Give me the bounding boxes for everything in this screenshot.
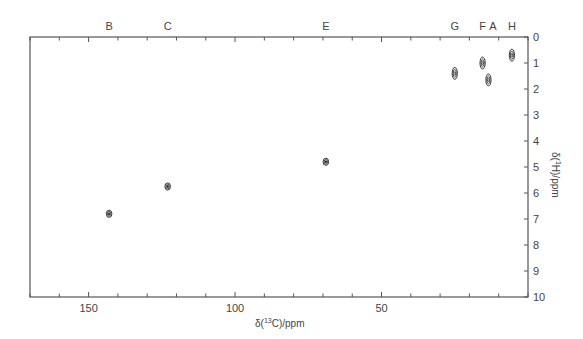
peak-label-C: C — [164, 20, 172, 32]
peak-label-E: E — [322, 20, 329, 32]
cross-peak-C — [165, 183, 171, 190]
peak-label-G: G — [450, 20, 459, 32]
y-tick-label: 9 — [533, 265, 539, 277]
x-tick-label: 100 — [226, 302, 244, 314]
x-tick-label: 150 — [79, 302, 97, 314]
peak-label-A: A — [489, 20, 497, 32]
y-tick-label: 2 — [533, 83, 539, 95]
y-axis-ticks: 012345678910 — [524, 31, 545, 303]
y-tick-label: 10 — [533, 291, 545, 303]
x-tick-label: 50 — [375, 302, 387, 314]
cross-peak-G — [452, 67, 457, 79]
cross-peaks — [106, 49, 514, 217]
cross-peak-A — [486, 74, 491, 86]
y-tick-label: 1 — [533, 57, 539, 69]
y-tick-label: 4 — [533, 135, 539, 147]
y-tick-label: 6 — [533, 187, 539, 199]
x-axis-title: δ(13C)/ppm — [255, 317, 305, 329]
y-tick-label: 3 — [533, 109, 539, 121]
hsqc-spectrum-chart: 50100150 012345678910 BCEGFAH δ(13C)/ppm… — [0, 0, 583, 339]
y-tick-label: 8 — [533, 239, 539, 251]
y-tick-label: 5 — [533, 161, 539, 173]
y-tick-label: 0 — [533, 31, 539, 43]
cross-peak-H — [509, 49, 514, 61]
peak-label-H: H — [508, 20, 516, 32]
y-tick-label: 7 — [533, 213, 539, 225]
y-axis-title: δ(1H)/ppm — [550, 152, 562, 198]
peak-label-B: B — [105, 20, 112, 32]
cross-peak-B — [106, 210, 112, 217]
peak-label-F: F — [479, 20, 486, 32]
peak-assignment-labels: BCEGFAH — [105, 20, 515, 32]
cross-peak-F — [480, 57, 485, 69]
cross-peak-E — [323, 158, 329, 165]
